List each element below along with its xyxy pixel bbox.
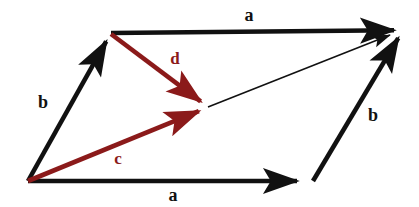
vector-diagram-canvas <box>0 0 419 207</box>
vector-a-top <box>111 30 394 33</box>
label-c: c <box>114 150 122 167</box>
vector-b-right <box>313 38 398 181</box>
label-a-bottom: a <box>169 186 178 204</box>
vector-d <box>111 34 201 101</box>
label-d: d <box>170 50 179 67</box>
label-b-right: b <box>368 106 378 124</box>
vector-diagram-figure: a a b b c d <box>0 0 419 207</box>
label-b-left: b <box>38 93 48 111</box>
label-a-top: a <box>245 6 254 24</box>
vector-c <box>28 111 199 181</box>
